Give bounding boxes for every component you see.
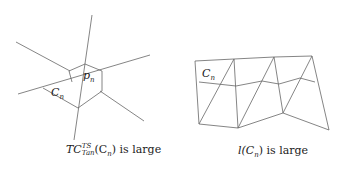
ray-line <box>100 91 144 121</box>
right-caption: l(Cn) is large <box>238 144 308 159</box>
mesh-bottom <box>199 113 329 130</box>
curve-cn-left-label: Cn <box>51 86 64 101</box>
ray-line <box>16 42 70 71</box>
curve-cn-right-label: Cn <box>202 67 215 82</box>
mesh-top <box>195 56 329 130</box>
left-caption: TCTSTan(Cn) is large <box>66 143 161 158</box>
point-pn-label: pn <box>83 69 95 84</box>
